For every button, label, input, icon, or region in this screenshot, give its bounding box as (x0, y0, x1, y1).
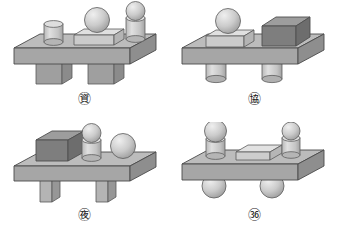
figure-cell-na: ㊯ (170, 0, 339, 121)
figure-grid: ㊮ (0, 0, 339, 243)
figure-cell-ra: ㊱ (170, 122, 339, 243)
object-cylinder-sphere-right-ga (126, 2, 145, 43)
figure-label-ga: ㊮ (0, 92, 169, 105)
object-box-sphere-center-ga (74, 8, 124, 46)
figure-cell-ga: ㊮ (0, 0, 169, 121)
legs-na (206, 63, 282, 83)
object-cylinder-sphere-right-ra (282, 122, 300, 158)
object-sphere-right-da (111, 133, 136, 158)
object-cylinder-sphere-left-ra (204, 122, 226, 159)
figure-label-da: ㊰ (0, 208, 169, 221)
figure-cell-da: ㊰ (0, 122, 169, 243)
object-cylinder-sphere-center-da (82, 123, 101, 161)
figure-diagram-ra (170, 122, 339, 243)
figure-label-ra: ㊱ (170, 208, 339, 221)
object-box-sphere-left-na (206, 9, 254, 48)
figure-label-na: ㊯ (170, 92, 339, 105)
object-cylinder-left-ga (44, 21, 63, 46)
figure-diagram-da (0, 122, 169, 243)
object-cube-left-da (36, 131, 84, 161)
object-cube-right-na (262, 17, 310, 46)
